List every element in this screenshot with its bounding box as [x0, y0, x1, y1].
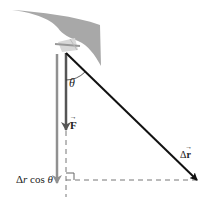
work-diagram: θ F Δr Δr cos θ: [0, 0, 208, 209]
r-vector-symbol: r: [186, 150, 190, 160]
force-symbol: F: [70, 120, 77, 131]
projection-cos: cos: [27, 173, 47, 185]
theta-label: θ: [69, 77, 75, 89]
displacement-arrow: [66, 53, 197, 180]
projection-theta: θ: [48, 173, 53, 185]
right-angle-marker: [66, 173, 74, 180]
force-label: F: [70, 120, 77, 131]
displacement-label: Δr: [180, 150, 191, 160]
projection-label: Δr cos θ: [16, 174, 53, 185]
